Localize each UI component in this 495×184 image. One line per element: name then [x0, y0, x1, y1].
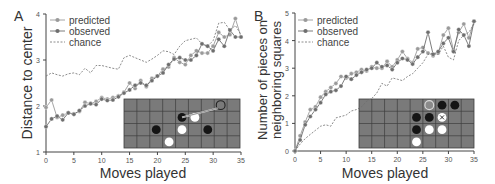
x-tick-label: 10: [342, 156, 350, 163]
observed-marker: [385, 63, 389, 67]
predicted-marker: [61, 113, 65, 117]
observed-marker: [61, 118, 65, 122]
observed-marker: [72, 112, 76, 116]
observed-marker: [139, 81, 143, 85]
legend-a: predictedobservedchance: [50, 15, 110, 48]
observed-marker: [467, 44, 471, 48]
observed-marker: [390, 68, 394, 72]
observed-marker: [416, 55, 420, 59]
predicted-marker: [200, 51, 204, 55]
figure: A Distance to center Moves played 123405…: [0, 0, 495, 184]
predicted-marker: [50, 98, 54, 102]
observed-marker: [233, 35, 237, 39]
inset-board-a: [124, 99, 240, 148]
observed-marker: [339, 84, 343, 88]
observed-marker: [313, 108, 317, 112]
predicted-marker: [233, 17, 237, 21]
observed-marker: [421, 50, 425, 54]
observed-marker: [122, 91, 126, 95]
observed-marker: [405, 58, 409, 62]
x-tick-label: 5: [319, 156, 323, 163]
predicted-marker: [183, 63, 187, 67]
observed-marker: [50, 117, 54, 121]
y-tick-label: 3: [285, 65, 289, 72]
y-tick-label: 1: [285, 120, 289, 127]
y-axis-label-b-line2: neighboring squares: [269, 21, 284, 139]
x-axis-label-a: Moves played: [100, 165, 186, 181]
x-tick-label: 10: [98, 157, 106, 164]
observed-marker: [189, 58, 193, 62]
observed-marker: [144, 83, 148, 87]
observed-marker: [133, 83, 137, 87]
y-tick-label: 2: [36, 103, 40, 110]
white-piece: [438, 125, 447, 134]
white-piece: [178, 125, 187, 134]
observed-marker: [400, 56, 404, 60]
observed-marker: [319, 101, 323, 105]
y-tick-label: 5: [285, 10, 289, 17]
predicted-marker: [308, 108, 312, 112]
predicted-marker: [416, 47, 420, 51]
black-piece: [450, 101, 459, 110]
predicted-marker: [329, 85, 333, 89]
observed-marker: [77, 109, 81, 113]
predicted-marker: [128, 81, 132, 85]
observed-marker: [349, 77, 353, 81]
observed-marker: [167, 63, 171, 67]
observed-marker: [239, 35, 243, 39]
x-tick-label: 35: [237, 157, 245, 164]
observed-marker: [89, 102, 93, 106]
white-piece: [425, 125, 434, 134]
x-tick-label: 15: [126, 157, 134, 164]
predicted-marker: [349, 72, 353, 76]
observed-marker: [375, 61, 379, 65]
predicted-marker: [446, 26, 450, 30]
x-tick-label: 35: [470, 156, 478, 163]
predicted-marker: [462, 22, 466, 26]
x-tick-label: 0: [293, 156, 297, 163]
white-piece: [412, 137, 421, 146]
y-tick-label: 2: [285, 93, 289, 100]
observed-marker: [94, 103, 98, 107]
x-tick-label: 30: [445, 156, 453, 163]
predicted-marker: [222, 35, 226, 39]
y-axis-label-b-line1: Number of pieces on: [255, 20, 270, 140]
predicted-marker: [178, 60, 182, 64]
predicted-marker: [339, 74, 343, 78]
observed-marker: [217, 37, 221, 41]
observed-marker: [44, 125, 48, 129]
observed-marker: [380, 65, 384, 69]
black-piece: [412, 113, 421, 122]
predicted-marker: [189, 53, 193, 57]
observed-marker: [55, 114, 59, 118]
legend-predicted-label: predicted: [69, 15, 110, 26]
observed-marker: [194, 53, 198, 57]
predicted-marker: [385, 59, 389, 63]
observed-marker: [308, 114, 312, 118]
legend-predicted-marker-icon: [303, 18, 307, 22]
x-tick-label: 15: [368, 156, 376, 163]
observed-marker: [370, 66, 374, 70]
observed-marker: [66, 111, 70, 115]
y-tick-label: 4: [36, 11, 40, 18]
legend-observed-label: observed: [69, 26, 110, 37]
observed-marker: [457, 28, 461, 32]
observed-marker: [365, 68, 369, 72]
observed-marker: [111, 98, 115, 102]
x-tick-label: 25: [419, 156, 427, 163]
observed-marker: [354, 73, 358, 77]
predicted-marker: [217, 30, 221, 34]
observed-marker: [303, 123, 307, 127]
observed-marker: [431, 52, 435, 56]
observed-marker: [83, 104, 87, 108]
observed-marker: [329, 90, 333, 94]
observed-marker: [105, 98, 109, 102]
observed-marker: [324, 92, 328, 96]
x-axis-label-b: Moves played: [342, 165, 428, 181]
observed-marker: [395, 61, 399, 65]
panel-label-a: A: [14, 8, 24, 24]
y-tick-label: 1: [36, 149, 40, 156]
predicted-marker: [375, 66, 379, 70]
x-tick-label: 5: [72, 157, 76, 164]
legend-chance-label: chance: [69, 37, 102, 48]
